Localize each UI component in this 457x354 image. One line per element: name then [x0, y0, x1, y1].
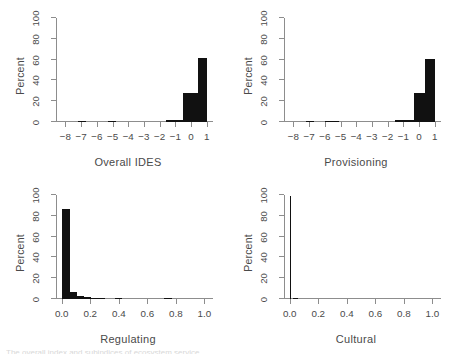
histogram-bar [414, 93, 426, 122]
histogram-bar [166, 120, 183, 122]
y-tick [51, 236, 56, 237]
histogram-bar [108, 121, 116, 122]
y-tick [51, 215, 56, 216]
histogram-bar [78, 121, 86, 122]
x-tick [309, 122, 310, 127]
x-tick [293, 122, 294, 127]
histogram-bar [425, 59, 434, 122]
y-tick-label: 100 [30, 6, 41, 32]
y-tick-label: 100 [30, 183, 41, 209]
x-tick-label: 0.8 [391, 308, 417, 319]
x-tick [128, 122, 129, 127]
x-tick [388, 122, 389, 127]
histogram-bar [290, 196, 292, 299]
y-tick [279, 121, 284, 122]
y-tick [51, 38, 56, 39]
x-tick [207, 122, 208, 127]
x-tick [318, 299, 319, 304]
histogram-bar [62, 209, 69, 299]
x-tick [432, 299, 433, 304]
x-tick [160, 122, 161, 127]
x-tick [176, 299, 177, 304]
y-tick [279, 277, 284, 278]
x-tick-label: 0.0 [277, 308, 303, 319]
x-tick-label: 0.4 [334, 308, 360, 319]
y-tick-label: 100 [258, 6, 269, 32]
x-tick [325, 122, 326, 127]
histogram-bar [306, 121, 314, 122]
x-tick [97, 122, 98, 127]
y-tick [51, 59, 56, 60]
y-axis-label: Percent [242, 163, 254, 223]
x-tick [65, 122, 66, 127]
clipped-caption: The overall index and subindices of ecos… [6, 348, 451, 354]
y-tick [279, 298, 284, 299]
x-tick-label: 0.2 [305, 308, 331, 319]
y-tick [51, 79, 56, 80]
panel-cultural: Percent 0204060801000.00.20.40.60.81.0 C… [228, 177, 456, 349]
x-tick-label: 1.0 [191, 308, 217, 319]
x-tick-label: 0.2 [77, 308, 103, 319]
x-tick [356, 122, 357, 127]
x-tick [81, 122, 82, 127]
histogram-bar [98, 298, 105, 299]
y-axis-line [56, 195, 57, 299]
x-tick [347, 299, 348, 304]
x-tick [435, 122, 436, 127]
x-axis-line [284, 298, 441, 299]
y-tick [51, 194, 56, 195]
histogram-bar [325, 121, 339, 122]
x-tick [204, 299, 205, 304]
x-tick [62, 299, 63, 304]
histogram-bar [395, 120, 413, 122]
x-tick [341, 122, 342, 127]
plot-area: 0204060801000.00.20.40.60.81.0 [284, 195, 441, 299]
x-tick [119, 299, 120, 304]
histogram-bar [70, 292, 77, 299]
x-axis-label: Overall IDES [0, 156, 228, 168]
histogram-bar [293, 298, 299, 299]
panel-provisioning: Percent 020406080100−8−7−6−5−4−3−2−101 P… [228, 0, 456, 172]
x-tick [290, 299, 291, 304]
x-axis-label: Cultural [228, 333, 456, 345]
plot-area: 020406080100−8−7−6−5−4−3−2−101 [284, 18, 441, 122]
y-axis-label: Percent [14, 0, 26, 46]
x-tick [147, 299, 148, 304]
histogram-bar [183, 93, 198, 122]
panel-overall-ides: Percent 020406080100−8−7−6−5−4−3−2−101 O… [0, 0, 228, 172]
x-tick [113, 122, 114, 127]
plot-area: 020406080100−8−7−6−5−4−3−2−101 [56, 18, 213, 122]
x-axis-label: Provisioning [228, 156, 456, 168]
x-tick-label: 1.0 [419, 308, 445, 319]
histogram-figure: Percent 020406080100−8−7−6−5−4−3−2−101 O… [0, 0, 457, 354]
x-tick [144, 122, 145, 127]
y-tick [279, 215, 284, 216]
x-tick-label: 0.0 [49, 308, 75, 319]
y-tick [51, 100, 56, 101]
x-tick [375, 299, 376, 304]
y-axis-line [56, 18, 57, 122]
x-tick-label: 1 [194, 131, 220, 142]
histogram-bar [77, 296, 84, 299]
x-tick [419, 122, 420, 127]
y-tick [279, 17, 284, 18]
y-tick [279, 194, 284, 195]
y-tick [279, 236, 284, 237]
x-tick-label: 0.4 [106, 308, 132, 319]
x-axis-label: Regulating [0, 333, 228, 345]
y-axis-label: Percent [242, 0, 254, 46]
panel-regulating: Percent 0204060801000.00.20.40.60.81.0 R… [0, 177, 228, 349]
y-tick [51, 17, 56, 18]
y-tick [279, 256, 284, 257]
y-tick [279, 79, 284, 80]
x-tick-label: 0.6 [362, 308, 388, 319]
histogram-bar [91, 298, 98, 299]
y-tick [51, 298, 56, 299]
y-tick [51, 256, 56, 257]
x-tick [404, 299, 405, 304]
y-axis-line [284, 18, 285, 122]
x-tick-label: 0.6 [134, 308, 160, 319]
y-tick-label: 100 [258, 183, 269, 209]
y-tick [51, 121, 56, 122]
y-tick [51, 277, 56, 278]
